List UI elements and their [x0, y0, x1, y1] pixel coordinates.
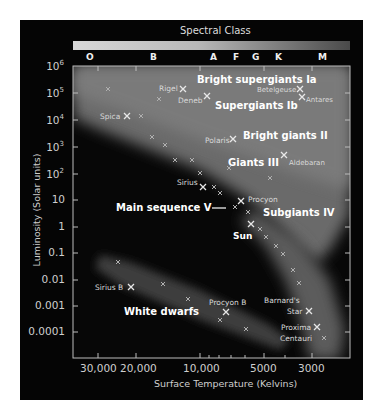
star-label-centauri: Centauri [280, 334, 312, 343]
spectral-class-b: B [150, 52, 157, 62]
sun-label: Sun [233, 231, 252, 241]
y-tick-1: 1 [21, 220, 65, 232]
star-label-aldebaran: Aldebaran [289, 159, 325, 167]
svg-text:105: 105 [46, 86, 64, 99]
y-tick-0.0001: 0.0001 [21, 325, 65, 337]
svg-text:102: 102 [46, 167, 64, 180]
spectral-class-bar [73, 41, 350, 50]
star-label-sirius: Sirius [177, 178, 198, 187]
svg-text:103: 103 [46, 140, 64, 153]
y-tick-0.1: 0.1 [21, 246, 65, 258]
star-label-proxima: Proxima [281, 323, 311, 332]
spectral-class-f: F [233, 52, 239, 62]
spectral-class-a: A [210, 52, 217, 62]
svg-text:104: 104 [46, 113, 64, 126]
x-tick-30000: 30,000 [80, 362, 117, 374]
region-giants: Giants III [228, 157, 279, 168]
star-label-sirius-b: Sirius B [95, 283, 123, 292]
spectral-class-g: G [252, 52, 259, 62]
x-tick-5000: 5000 [250, 362, 277, 374]
star-label-antares: Antares [306, 96, 333, 104]
svg-text:106: 106 [46, 59, 64, 72]
region-subgiants: Subgiants IV [263, 207, 335, 218]
star-label-barnards: Barnard's [264, 296, 300, 305]
spectral-class-o: O [86, 52, 94, 62]
region-bright-giants: Bright giants II [243, 130, 328, 141]
spectral-class-k: K [275, 52, 282, 62]
star-label-procyon-b: Procyon B [209, 298, 246, 307]
spectral-class-m: M [318, 52, 327, 62]
y-tick-0.001: 0.001 [21, 299, 65, 311]
y-axis-label: Luminosity (Solar units) [31, 154, 42, 267]
region-main-sequence: Main sequence V [116, 202, 212, 213]
star-label-procyon: Procyon [248, 195, 278, 204]
x-axis-label: Surface Temperature (Kelvins) [154, 378, 297, 389]
star-label-barnards-star: Star [287, 307, 302, 316]
y-tick-0.01: 0.01 [21, 273, 65, 285]
x-tick-20000: 20,000 [120, 362, 157, 374]
x-tick-3000: 3000 [298, 362, 325, 374]
y-power-labels: 106 105 104 103 102 [46, 59, 64, 180]
star-label-deneb: Deneb [178, 96, 203, 105]
y-tick-10: 10 [21, 193, 65, 205]
star-label-rigel: Rigel [159, 84, 178, 93]
star-label-polaris: Polaris [205, 136, 230, 145]
star-label-spica: Spica [100, 112, 120, 121]
x-tick-10000: 10,000 [183, 362, 220, 374]
spectral-class-title: Spectral Class [180, 25, 251, 36]
region-supergiants: Supergiants Ib [215, 100, 298, 111]
star-label-betelgeuse: Betelgeuse [257, 86, 296, 94]
region-white-dwarfs: White dwarfs [124, 306, 199, 317]
region-bright-supergiants: Bright supergiants Ia [197, 74, 317, 85]
